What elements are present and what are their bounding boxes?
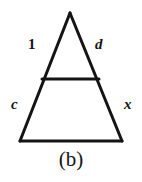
segment-label-upper-left: 1 [28,37,36,52]
triangle-left-side [20,13,70,141]
segment-label-lower-left: c [11,97,18,112]
triangle-right-side [70,13,122,141]
segment-label-upper-right: d [95,37,103,52]
segment-label-lower-right: x [124,97,132,112]
similar-triangles-figure: 1 d c x (b) [0,0,142,182]
figure-caption: (b) [0,149,142,170]
